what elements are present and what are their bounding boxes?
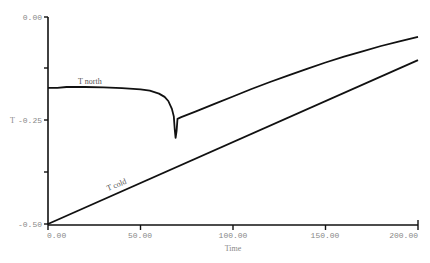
line-chart: 0.00 -0.25 -0.50 T 0.00 50.00 100.00 150… — [0, 0, 430, 263]
series-label-t-north: T north — [78, 77, 102, 86]
x-tick-label: 100.00 — [219, 231, 248, 240]
x-axis-title: Time — [225, 244, 242, 253]
y-tick-label: -0.25 — [18, 116, 42, 125]
y-tick-label: 0.00 — [23, 13, 42, 22]
x-tick-label: 150.00 — [311, 231, 340, 240]
x-tick-label: 0.00 — [47, 231, 66, 240]
y-tick-label: -0.50 — [18, 220, 42, 229]
series-t-north — [48, 37, 418, 138]
y-axis-title: T — [10, 116, 15, 125]
x-tick-label: 200.00 — [389, 231, 418, 240]
series-t-cold — [48, 60, 418, 224]
x-tick-label: 50.00 — [128, 231, 152, 240]
